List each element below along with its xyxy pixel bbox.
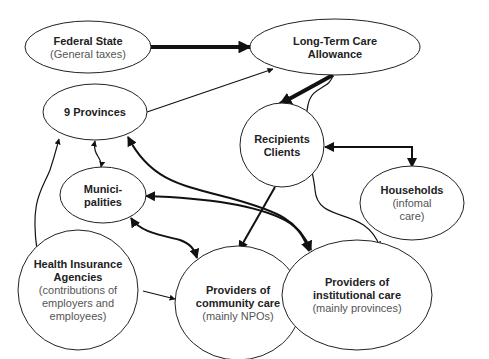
node-municipalities: Munici-palities xyxy=(60,167,146,223)
node-subtitle-health: (contributions of xyxy=(39,284,118,296)
node-ltc: Long-Term CareAllowance xyxy=(250,19,420,75)
node-recipients: RecipientsClients xyxy=(240,103,324,187)
node-title-federal: Federal State xyxy=(53,35,122,47)
node-subtitle-households: (infomal xyxy=(392,197,431,209)
node-title-households: Households xyxy=(381,184,444,196)
node-subtitle-households: care) xyxy=(399,210,424,222)
edge-municipalities-community xyxy=(131,218,197,258)
node-health: Health InsuranceAgencies(contributions o… xyxy=(18,230,138,350)
node-title-community: community care xyxy=(196,297,280,309)
edge-provinces-municipalities xyxy=(94,141,101,167)
nodes-layer: Federal State(General taxes)Long-Term Ca… xyxy=(18,19,464,359)
node-title-institutional: Providers of xyxy=(325,276,390,288)
node-households: Households(infomalcare) xyxy=(360,166,464,240)
node-federal: Federal State(General taxes) xyxy=(25,21,151,73)
edge-health-to-provinces xyxy=(35,139,59,250)
edge-recipients-to-community xyxy=(239,187,275,250)
edge-municipalities-institutional xyxy=(146,196,309,251)
financing-diagram: Federal State(General taxes)Long-Term Ca… xyxy=(0,0,489,359)
edge-ltc-to-recipients xyxy=(280,75,333,104)
node-title-community: Providers of xyxy=(206,284,271,296)
node-subtitle-community: (mainly NPOs) xyxy=(202,310,274,322)
node-subtitle-health: employers and xyxy=(42,297,114,309)
node-title-health: Health Insurance xyxy=(34,258,123,270)
edge-provinces-to-ltc xyxy=(147,69,273,112)
node-title-municipalities: palities xyxy=(84,196,122,208)
node-title-institutional: institutional care xyxy=(313,289,401,301)
node-title-municipalities: Munici- xyxy=(84,183,123,195)
edge-health-to-community xyxy=(143,291,175,299)
node-title-ltc: Long-Term Care xyxy=(293,35,377,47)
node-community: Providers ofcommunity care(mainly NPOs) xyxy=(175,246,301,359)
node-title-provinces: 9 Provinces xyxy=(64,106,126,118)
node-subtitle-health: employees) xyxy=(50,310,107,322)
node-institutional: Providers ofinstitutional care(mainly pr… xyxy=(282,240,432,350)
node-title-health: Agencies xyxy=(54,271,103,283)
node-subtitle-institutional: (mainly provinces) xyxy=(312,302,401,314)
node-title-recipients: Clients xyxy=(264,146,301,158)
edge-recipients-households xyxy=(325,147,412,167)
node-subtitle-federal: (General taxes) xyxy=(50,48,126,60)
node-title-recipients: Recipients xyxy=(254,133,310,145)
node-title-ltc: Allowance xyxy=(308,48,362,60)
node-provinces: 9 Provinces xyxy=(43,84,147,140)
